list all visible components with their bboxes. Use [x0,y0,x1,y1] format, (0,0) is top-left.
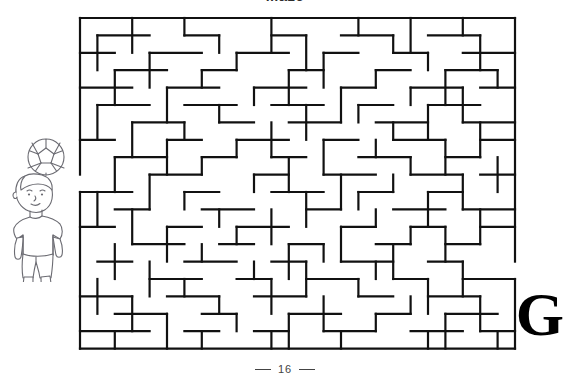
page-footer: 16 [0,362,570,375]
boy-soccer-illustration [2,136,76,282]
head-icon [13,174,52,212]
maze-grid-svg[interactable] [78,16,518,352]
soccer-ball-icon [28,139,64,175]
maze-background [78,16,518,352]
activity-page: Maze [0,0,570,383]
legs [23,276,52,282]
shorts [22,254,53,278]
page-heading: Maze [0,0,570,7]
footer-dash-left [255,369,271,370]
corner-letter-g: G [516,283,564,345]
footer-dash-right [299,369,315,370]
maze-puzzle[interactable] [78,16,518,352]
page-number: 16 [278,363,292,375]
boy-heading-soccer-ball-icon [2,136,76,282]
